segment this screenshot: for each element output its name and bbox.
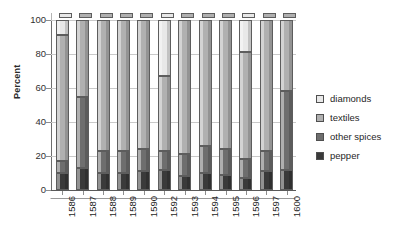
bar-segment-pepper <box>260 171 273 190</box>
x-tick-mark-1592 <box>164 191 165 195</box>
chart-root: Percent 020406080100 1586158715881589159… <box>0 0 409 243</box>
legend-swatch-diamonds <box>316 95 324 103</box>
segment-highlight <box>159 77 162 150</box>
bar-segment-pepper <box>56 173 69 190</box>
segment-highlight <box>118 21 121 150</box>
bar-segment-textiles <box>199 20 212 146</box>
y-axis-line <box>51 20 52 190</box>
legend-item-textiles[interactable]: textiles <box>316 108 409 127</box>
segment-shadow <box>146 21 149 148</box>
x-tick-label-1595: 1595 <box>230 196 241 240</box>
segment-shadow <box>228 150 231 174</box>
x-tick-mark-1590 <box>144 191 145 195</box>
x-tick-mark-1586 <box>62 191 63 195</box>
bar-segment-other-spices <box>239 159 252 178</box>
x-tick-mark-1600 <box>287 191 288 195</box>
segment-highlight <box>98 174 101 189</box>
segment-shadow <box>208 147 211 172</box>
segment-shadow <box>126 174 129 189</box>
segment-highlight <box>98 21 101 150</box>
segment-shadow <box>106 174 109 189</box>
bar-segment-textiles <box>56 35 69 161</box>
bar-stack <box>97 20 110 190</box>
bar-stack <box>76 20 89 190</box>
bar-stack <box>280 20 293 190</box>
bar-1588 <box>97 20 110 190</box>
segment-shadow <box>269 21 272 150</box>
segment-shadow <box>187 155 190 175</box>
segment-shadow <box>126 152 129 172</box>
bar-stack <box>56 20 69 190</box>
x-axis-tick-labels: 1586158715881589159015921593159415951596… <box>51 196 303 243</box>
segment-highlight <box>159 21 162 75</box>
segment-shadow <box>65 162 68 172</box>
segment-shadow <box>167 21 170 75</box>
bar-segment-pepper <box>219 175 232 190</box>
bar-stack <box>117 20 130 190</box>
y-tick-mark-40 <box>46 122 51 123</box>
bar-1594 <box>199 20 212 190</box>
bar-stack <box>219 20 232 190</box>
bar-stack <box>158 20 171 190</box>
bar-segment-textiles <box>158 76 171 151</box>
bar-segment-pepper <box>117 173 130 190</box>
bar-top-cap <box>100 13 113 18</box>
segment-highlight <box>159 171 162 189</box>
bar-1596 <box>239 20 252 190</box>
legend-label: diamonds <box>330 93 371 104</box>
legend-swatch-textiles <box>316 114 324 122</box>
bar-segment-textiles <box>76 20 89 97</box>
x-tick-label-1587: 1587 <box>87 196 98 240</box>
segment-highlight <box>261 21 264 150</box>
y-tick-mark-80 <box>46 54 51 55</box>
legend-item-pepper[interactable]: pepper <box>316 146 409 165</box>
segment-highlight <box>179 21 182 153</box>
segment-shadow <box>106 152 109 172</box>
bar-segment-textiles <box>97 20 110 151</box>
bar-segment-other-spices <box>76 97 89 168</box>
segment-highlight <box>200 174 203 189</box>
segment-shadow <box>187 21 190 153</box>
segment-highlight <box>159 152 162 169</box>
bar-1592 <box>158 20 171 190</box>
bar-stack <box>178 20 191 190</box>
bar-top-cap <box>181 13 194 18</box>
bar-1590 <box>137 20 150 190</box>
bar-segment-textiles <box>239 52 252 159</box>
legend: diamondstextilesother spicespepper <box>316 89 409 165</box>
bar-segment-other-spices <box>178 154 191 176</box>
segment-shadow <box>208 21 211 145</box>
bar-segment-textiles <box>178 20 191 154</box>
segment-shadow <box>85 98 88 167</box>
segment-highlight <box>98 152 101 172</box>
x-tick-mark-1588 <box>103 191 104 195</box>
segment-highlight <box>57 21 60 34</box>
y-tick-label-80: 80 <box>16 48 46 59</box>
bar-1593 <box>178 20 191 190</box>
bar-top-cap <box>283 13 296 18</box>
legend-item-diamonds[interactable]: diamonds <box>316 89 409 108</box>
x-tick-label-1586: 1586 <box>66 196 77 240</box>
segment-highlight <box>200 147 203 172</box>
y-axis-tick-labels: 020406080100 <box>14 0 46 243</box>
bar-top-cap <box>242 13 255 18</box>
segment-shadow <box>106 21 109 150</box>
segment-shadow <box>248 21 251 51</box>
segment-highlight <box>77 98 80 167</box>
legend-item-other-spices[interactable]: other spices <box>316 127 409 146</box>
bar-segment-textiles <box>137 20 150 149</box>
segment-shadow <box>269 172 272 189</box>
bar-segment-textiles <box>260 20 273 151</box>
bar-stack <box>239 20 252 190</box>
segment-shadow <box>85 21 88 96</box>
y-tick-label-0: 0 <box>16 184 46 195</box>
segment-shadow <box>146 150 149 170</box>
bar-top-cap <box>120 13 133 18</box>
segment-shadow <box>248 53 251 158</box>
bar-1600 <box>280 20 293 190</box>
bar-segment-pepper <box>76 168 89 190</box>
plot-area: Percent 020406080100 1586158715881589159… <box>0 0 310 243</box>
x-tick-label-1589: 1589 <box>127 196 138 240</box>
segment-shadow <box>187 177 190 189</box>
bar-segment-textiles <box>117 20 130 151</box>
